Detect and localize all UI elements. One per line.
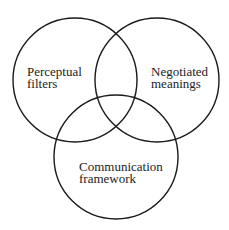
label-negotiated-meanings: Negotiated meanings (151, 64, 209, 91)
label-line: meanings (151, 76, 201, 91)
circle-communication-framework (54, 95, 178, 219)
label-perceptual-filters: Perceptual filters (27, 64, 82, 91)
venn-diagram: Perceptual filters Negotiated meanings C… (0, 0, 229, 230)
label-line: filters (27, 76, 57, 91)
label-communication-framework: Communication framework (79, 159, 163, 186)
label-line: framework (79, 171, 137, 186)
